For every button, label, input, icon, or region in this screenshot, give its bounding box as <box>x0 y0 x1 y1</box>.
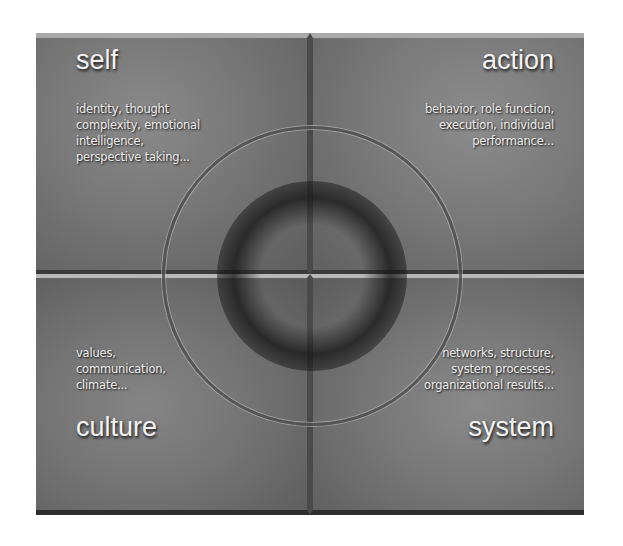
description-line: performance... <box>425 133 554 149</box>
description-line: communication, <box>76 361 166 377</box>
description-line: complexity, emotional <box>76 117 200 133</box>
quadrant-diagram: self identity, thought complexity, emoti… <box>36 33 584 515</box>
description-line: networks, structure, <box>424 345 554 361</box>
description-line: behavior, role function, <box>425 101 554 117</box>
quadrant-description-self: identity, thought complexity, emotional … <box>76 101 200 165</box>
description-line: climate... <box>76 377 166 393</box>
quadrant-title-culture: culture <box>76 414 157 441</box>
quadrant-title-action: action <box>482 47 554 74</box>
description-line: organizational results... <box>424 377 554 393</box>
quadrant-title-self: self <box>76 47 118 74</box>
description-line: intelligence, <box>76 133 200 149</box>
quadrant-system <box>310 274 584 515</box>
description-line: values, <box>76 345 166 361</box>
description-line: system processes, <box>424 361 554 377</box>
quadrant-description-culture: values, communication, climate... <box>76 345 166 393</box>
quadrant-title-system: system <box>468 414 554 441</box>
quadrant-culture <box>36 274 310 515</box>
description-line: identity, thought <box>76 101 200 117</box>
description-line: execution, individual <box>425 117 554 133</box>
quadrant-description-system: networks, structure, system processes, o… <box>424 345 554 393</box>
description-line: perspective taking... <box>76 149 200 165</box>
quadrant-description-action: behavior, role function, execution, indi… <box>425 101 554 149</box>
